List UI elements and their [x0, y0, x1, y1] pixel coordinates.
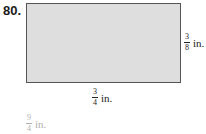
height-dimension-label: 3 8 in.: [184, 33, 204, 52]
rectangle-figure: [26, 3, 181, 83]
answer-denominator: 4: [27, 125, 31, 133]
height-fraction: 3 8: [184, 33, 190, 52]
width-dimension-label: 3 4 in.: [92, 88, 112, 107]
answer-unit: in.: [35, 118, 46, 130]
width-unit: in.: [101, 92, 112, 104]
height-denominator: 8: [185, 44, 189, 52]
answer-numerator: 9: [27, 114, 31, 122]
answer-label: 9 4 in.: [26, 114, 46, 133]
answer-fraction: 9 4: [26, 114, 32, 133]
width-numerator: 3: [93, 88, 97, 96]
width-denominator: 4: [93, 99, 97, 107]
height-numerator: 3: [185, 33, 189, 41]
width-fraction: 3 4: [92, 88, 98, 107]
height-unit: in.: [193, 37, 204, 49]
problem-number: 80.: [3, 3, 21, 18]
